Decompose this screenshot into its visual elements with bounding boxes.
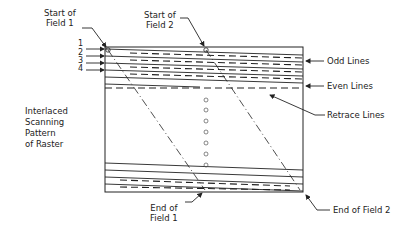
line-arrows	[86, 49, 104, 70]
retrace-lines-label: Retrace Lines	[327, 110, 385, 120]
scan-lines-top	[105, 49, 303, 87]
start-field2-line2: Field 2	[144, 20, 176, 30]
start-field1-label: Start of Field 1	[44, 8, 76, 28]
caption-line1: Interlaced	[25, 106, 68, 117]
line-number-1: 1	[78, 40, 83, 48]
caption-line2: Scanning	[25, 117, 68, 128]
end-field1-label: End of Field 1	[150, 203, 178, 223]
end-field1-line1: End of	[150, 203, 178, 213]
raster-frame	[105, 47, 303, 192]
side-caption: Interlaced Scanning Pattern of Raster	[25, 106, 68, 150]
start-field2-line1: Start of	[144, 10, 176, 20]
odd-lines-label: Odd Lines	[327, 56, 369, 66]
start-field2-label: Start of Field 2	[144, 10, 176, 30]
start-field1-line1: Start of	[44, 8, 76, 18]
caption-line4: of Raster	[25, 139, 68, 150]
continuation-dots	[204, 98, 208, 167]
caption-line3: Pattern	[25, 128, 68, 139]
even-lines-label: Even Lines	[327, 81, 373, 91]
line-number-4: 4	[78, 65, 83, 73]
start-field1-line2: Field 1	[44, 18, 76, 28]
end-field1-line2: Field 1	[150, 213, 178, 223]
end-field2-label: End of Field 2	[333, 205, 390, 215]
